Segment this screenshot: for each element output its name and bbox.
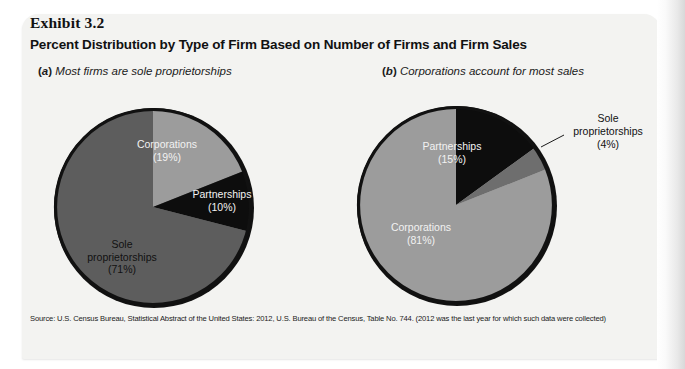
panel-b-caption-text: Corporations account for most sales bbox=[400, 65, 584, 77]
page-title: Percent Distribution by Type of Firm Bas… bbox=[30, 37, 527, 52]
exhibit-figure: Exhibit 3.2 Percent Distribution by Type… bbox=[0, 0, 685, 369]
pie-a-svg bbox=[52, 106, 256, 310]
panel-a-caption: (a) Most firms are sole proprietorships bbox=[38, 65, 232, 77]
page-gutter bbox=[657, 0, 685, 369]
pie-chart-b bbox=[355, 104, 559, 308]
pie-chart-a bbox=[52, 106, 256, 310]
panel-b-letter: (b) bbox=[382, 65, 397, 77]
source-note: Source: U.S. Census Bureau, Statistical … bbox=[30, 314, 630, 323]
pie-b-svg bbox=[355, 104, 559, 308]
panel-a-letter: (a) bbox=[38, 65, 52, 77]
panel-a-caption-text: Most firms are sole proprietorships bbox=[55, 65, 231, 77]
panel-b-caption: (b) Corporations account for most sales bbox=[382, 65, 584, 77]
exhibit-number: Exhibit 3.2 bbox=[30, 14, 105, 32]
